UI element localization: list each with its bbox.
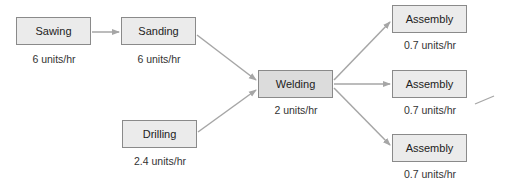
rate-welding: 2 units/hr — [246, 104, 346, 116]
node-label: Assembly — [406, 13, 454, 25]
rate-assembly-3: 0.7 units/hr — [380, 168, 480, 180]
node-label: Assembly — [406, 142, 454, 154]
node-welding: Welding — [258, 70, 333, 98]
node-assembly-3: Assembly — [392, 134, 467, 162]
node-sanding: Sanding — [121, 17, 196, 45]
arrow-welding-to-assembly3 — [334, 88, 390, 145]
rate-sanding: 6 units/hr — [109, 53, 209, 65]
rate-assembly-1: 0.7 units/hr — [380, 39, 480, 51]
node-assembly-2: Assembly — [392, 70, 467, 98]
rate-assembly-2: 0.7 units/hr — [380, 104, 480, 116]
rate-sawing: 6 units/hr — [4, 53, 104, 65]
node-assembly-1: Assembly — [392, 5, 467, 33]
node-label: Assembly — [406, 78, 454, 90]
node-label: Drilling — [143, 128, 177, 140]
node-sawing: Sawing — [16, 17, 91, 45]
node-drilling: Drilling — [122, 120, 197, 148]
node-label: Welding — [276, 78, 316, 90]
arrow-welding-to-assembly1 — [334, 22, 390, 80]
stray-mark — [475, 96, 494, 104]
node-label: Sawing — [35, 25, 71, 37]
node-label: Sanding — [138, 25, 178, 37]
rate-drilling: 2.4 units/hr — [110, 155, 210, 167]
